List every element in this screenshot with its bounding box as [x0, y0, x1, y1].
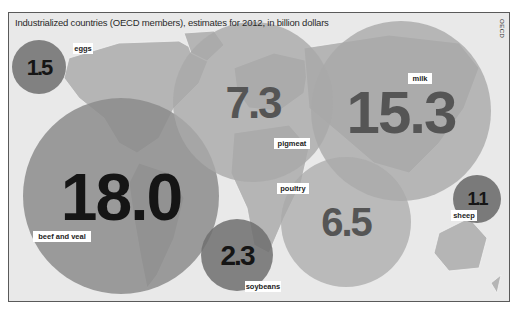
category-label-eggs: eggs	[74, 44, 92, 53]
category-label-pigmeat: pigmeat	[278, 139, 307, 148]
chart-frame: 18.015.37.36.52.31.51.1 beef and vealmil…	[8, 12, 510, 302]
value-label-poultry: 6.5	[321, 200, 372, 244]
chart-title: Industrialized countries (OECD members),…	[15, 17, 329, 28]
category-label-poultry: poultry	[280, 184, 306, 193]
source-label: OECD	[499, 19, 505, 38]
australia-shape	[434, 218, 487, 271]
bubble-map: 18.015.37.36.52.31.51.1 beef and vealmil…	[9, 13, 510, 302]
value-label-beef-and-veal: 18.0	[61, 160, 181, 234]
new-zealand-shape	[491, 275, 501, 293]
category-label-milk: milk	[412, 74, 428, 83]
value-label-soybeans: 2.3	[221, 240, 255, 271]
value-label-pigmeat: 7.3	[225, 78, 281, 127]
category-label-beef-and-veal: beef and veal	[38, 232, 86, 241]
value-label-milk: 15.3	[347, 79, 456, 146]
value-label-eggs: 1.5	[27, 55, 53, 80]
category-label-soybeans: soybeans	[246, 282, 281, 291]
category-label-sheep: sheep	[453, 211, 475, 220]
value-label-sheep: 1.1	[467, 189, 488, 209]
